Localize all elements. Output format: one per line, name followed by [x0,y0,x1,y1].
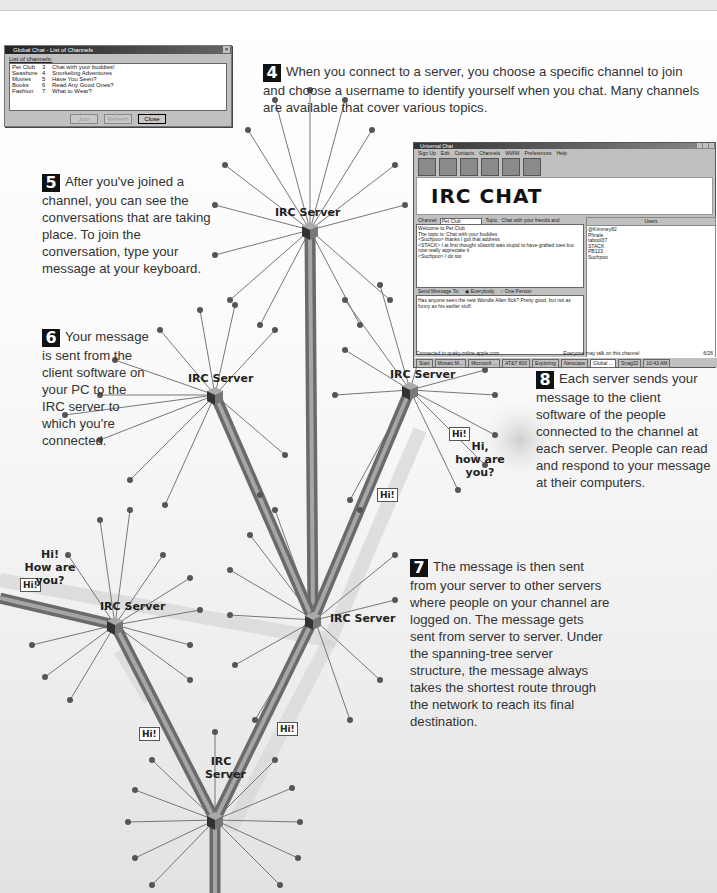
settings-icon[interactable] [523,158,541,176]
speech-right-line1: Hi, [440,440,520,453]
menu-channels[interactable]: Channels [479,150,500,156]
status-connection: Connected to quaky.online.apple.com [416,351,499,356]
topic-label: Topic: [485,217,498,224]
radio-one-person-label: One Person [505,288,532,294]
task-att[interactable]: AT&T 800 [502,359,530,368]
chat-line: <STACK> I at first thought s0world was s… [418,243,582,254]
step-5-text: After you've joined a channel, you can s… [42,174,211,276]
radio-everybody-label: Everybody [471,288,495,294]
step-8-number: 8 [536,371,554,389]
channel-list[interactable]: Pet Club3Chat with your buddies! Seashor… [9,63,227,111]
menu-edit[interactable]: Edit [441,150,450,156]
menu-help[interactable]: Help [556,150,566,156]
step-4-text: When you connect to a server, you choose… [263,64,699,115]
server-label-top: IRC Server [275,206,340,219]
hi-tag-center-right: Hi! [377,488,398,502]
chat-line: <Suchpoo> I do too [418,254,582,260]
join-button[interactable]: Join [70,114,98,124]
speech-left: Hi! How are you? [10,548,90,587]
channel-topic: What to Wear? [52,88,92,94]
clock: 10:43 AM [643,359,670,368]
dialog-caption: List of channels: [9,56,227,62]
task-global[interactable]: Global ... [590,359,616,368]
send-bar: Send Message To: ◉ Everybody ○ One Perso… [416,288,584,295]
speech-left-line1: Hi! [10,548,90,561]
hi-tag-bottom-left: Hi! [139,727,160,741]
channel-name: Fashion [10,88,42,94]
users-pane: Users @Kimmey82 Pfinale tabool37 STACK P… [586,217,716,361]
banner-text: IRC CHAT [431,184,542,208]
task-netscape[interactable]: Netscape [561,359,588,368]
menu-sign-up[interactable]: Sign Up [418,150,436,156]
server-label-center: IRC Server [330,612,395,625]
channel-users: 7 [42,88,52,94]
app-body: Channel Pet Club Topic: Chat with your f… [416,217,713,367]
close-button[interactable]: Close [138,114,166,124]
close-icon[interactable] [709,143,714,148]
channels-icon[interactable] [439,158,457,176]
step-7-text: The message is then sent from your serve… [410,559,609,729]
users-header: Users [587,218,715,226]
dialog-buttons: Join Refresh Close [5,114,231,124]
task-snag[interactable]: Snag32 [618,359,641,368]
speech-right: Hi, how are you? [440,440,520,479]
step-6: 6Your message is sent from the client so… [42,328,152,449]
message-input[interactable]: Has anyone seen the new Wondle Allen fli… [416,295,584,355]
menu-contacts[interactable]: Contacts [454,150,474,156]
radio-one-person[interactable]: ○ One Person [500,288,531,295]
refresh-button[interactable]: Refresh [104,114,132,124]
speech-left-line2: How are you? [10,561,90,587]
step-4-number: 4 [263,64,281,82]
taskbar: Start Mosaic M... Microsoft ... AT&T 800… [414,357,717,367]
toolbar [414,157,715,175]
menu-bar: Sign Up Edit Contacts Channels WWW Prefe… [414,149,715,157]
task-exploring[interactable]: Exploring [532,359,559,368]
topic-value: Chat with your friends and neighbors! [502,217,584,224]
step-7-number: 7 [410,559,428,577]
channel-bar: Channel Pet Club Topic: Chat with your f… [416,217,584,224]
hi-tag-bottom-right: Hi! [277,722,298,736]
universal-chat-window: Universal Chat Sign Up Edit Contacts Cha… [413,142,716,368]
minimize-icon[interactable] [697,143,702,148]
step-6-number: 6 [42,329,60,347]
radio-everybody[interactable]: ◉ Everybody [465,288,494,295]
server-label-bottom-line2: Server [205,768,237,781]
window-controls [697,143,714,148]
step-7: 7The message is then sent from your serv… [410,558,610,730]
status-count: 6/26 [703,351,713,356]
task-microsoft[interactable]: Microsoft ... [468,359,500,368]
chat-log[interactable]: Welcome to Pet Club The topic is: Chat w… [416,224,584,288]
users-list[interactable]: @Kimmey82 Pfinale tabool37 STACK PB123 S… [587,226,715,261]
maximize-icon[interactable] [703,143,708,148]
app-title: Universal Chat [420,143,453,149]
close-icon[interactable]: × [223,46,230,53]
menu-preferences[interactable]: Preferences [524,150,551,156]
channel-label: Channel [418,217,437,224]
step-8: 8Each server sends your message to the c… [536,370,712,491]
step-4: 4When you connect to a server, you choos… [263,63,703,116]
server-label-bottom: IRC Server [205,755,237,781]
dialog-title: Global Chat - List of Channels [13,47,93,53]
status-bar: Connected to quaky.online.apple.com Ever… [416,351,713,356]
task-mosaic[interactable]: Mosaic M... [435,359,467,368]
server-label-bottom-line1: IRC [205,755,237,768]
irc-chat-banner: IRC CHAT [416,177,713,215]
menu-www[interactable]: WWW [505,150,519,156]
step-5: 5After you've joined a channel, you can … [42,173,220,277]
connect-icon[interactable] [418,158,436,176]
send-label: Send Message To: [418,288,459,295]
app-titlebar: Universal Chat [414,143,715,149]
server-label-right: IRC Server [390,368,455,381]
channel-row[interactable]: Fashion7What to Wear? [10,88,226,94]
profile-icon[interactable] [460,158,478,176]
start-button[interactable]: Start [416,359,433,368]
hi-tag-right: Hi! [449,427,470,441]
image-icon[interactable] [502,158,520,176]
step-6-text: Your message is sent from the client sof… [42,329,149,448]
status-channel: Everyone may talk on this channel [563,351,639,356]
chat-pane: Channel Pet Club Topic: Chat with your f… [416,217,584,359]
dialog-titlebar: Global Chat - List of Channels × [5,46,231,54]
web-icon[interactable] [481,158,499,176]
channel-list-dialog: Global Chat - List of Channels × List of… [4,45,232,127]
user-item[interactable]: Suchpoo [588,255,714,261]
